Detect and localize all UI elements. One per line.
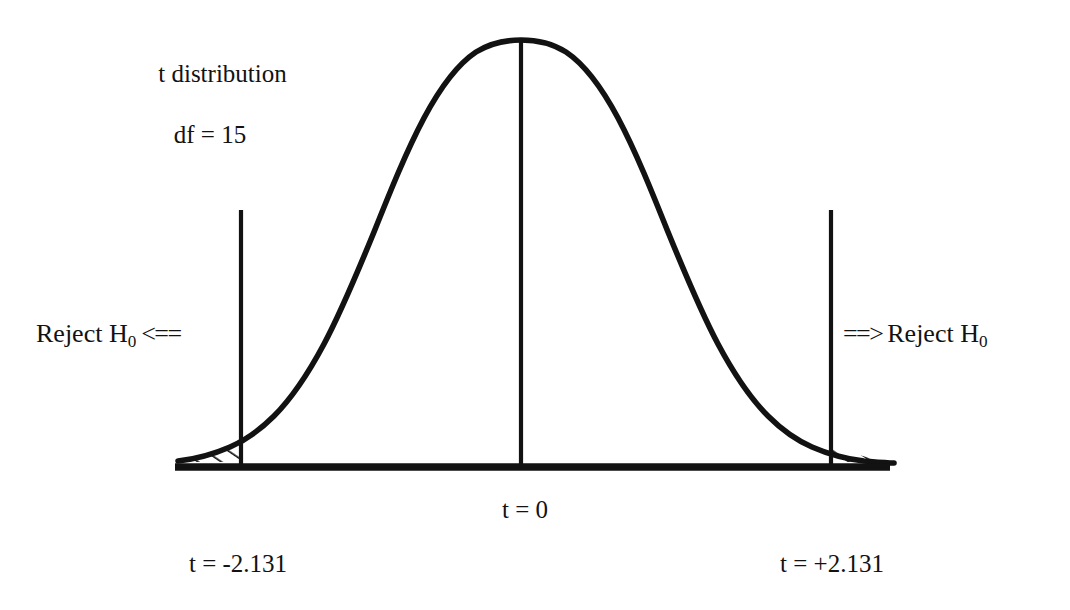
reject-right-text: Reject H bbox=[887, 319, 979, 348]
title-line-2: df = 15 bbox=[95, 120, 325, 151]
reject-annotation-right: ==> Reject H0 bbox=[843, 318, 988, 353]
reject-annotation-left: Reject H0 <== bbox=[36, 318, 181, 353]
title-line-1: t distribution bbox=[158, 60, 286, 87]
chart-title: t distribution df = 15 bbox=[95, 28, 325, 211]
left-critical-value-label: t = -2.131 bbox=[138, 549, 338, 580]
right-critical-value-label: t = +2.131 bbox=[732, 549, 932, 580]
center-value-label: t = 0 bbox=[470, 495, 580, 526]
reject-right-subscript: 0 bbox=[979, 332, 988, 351]
reject-left-text: Reject H bbox=[36, 319, 128, 348]
arrow-left-icon: <== bbox=[136, 319, 180, 348]
reject-left-subscript: 0 bbox=[128, 332, 137, 351]
arrow-right-icon: ==> bbox=[843, 319, 887, 348]
t-distribution-figure: t distribution df = 15 Reject H0 <== ==>… bbox=[0, 0, 1070, 610]
